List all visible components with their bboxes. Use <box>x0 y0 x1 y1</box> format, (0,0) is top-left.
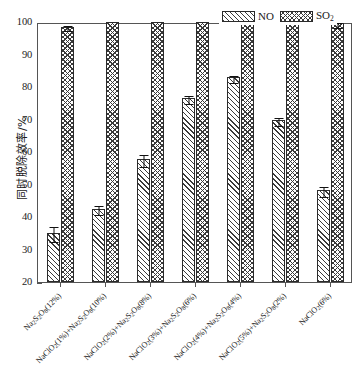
bar-so2 <box>286 22 299 282</box>
y-tick-label: 90 <box>6 49 32 60</box>
error-bar-cap-bottom <box>184 104 193 105</box>
bar-so2 <box>196 22 209 282</box>
y-tick-label: 60 <box>6 146 32 157</box>
legend-item-so2: SO2 <box>280 10 334 24</box>
legend: NO SO2 <box>219 9 337 25</box>
bar-no <box>182 98 195 282</box>
bar-so2 <box>331 23 344 282</box>
error-bar-cap-bottom <box>333 28 342 29</box>
error-bar-cap-bottom <box>319 197 328 198</box>
bar-no <box>137 159 150 282</box>
error-bar-cap-top <box>49 227 58 228</box>
y-tick-label: 30 <box>6 244 32 255</box>
bar-no <box>317 190 330 282</box>
x-tick-mark <box>60 283 61 287</box>
x-tick-mark <box>330 283 331 287</box>
error-bar-stem <box>98 206 99 215</box>
error-bar <box>137 155 150 167</box>
legend-item-no: NO <box>222 11 274 22</box>
y-tick-mark <box>37 283 42 284</box>
error-bar-stem <box>278 118 279 126</box>
bar-chart: 同时脱除效率/% 1009080706050403020 Na2S2O8(12%… <box>0 0 363 378</box>
error-bar-cap-bottom <box>274 126 283 127</box>
bar-no <box>227 77 240 282</box>
y-tick-label: 50 <box>6 179 32 190</box>
error-bar-stem <box>188 96 189 104</box>
error-bar-cap-bottom <box>139 167 148 168</box>
x-tick-mark <box>195 283 196 287</box>
y-tick-label: 40 <box>6 211 32 222</box>
legend-swatch-so2 <box>280 11 313 22</box>
error-bar-cap-bottom <box>94 215 103 216</box>
error-bar-cap-top <box>94 206 103 207</box>
plot-area <box>37 23 352 283</box>
error-bar <box>47 227 60 241</box>
error-bar <box>61 26 74 32</box>
y-tick-label: 80 <box>6 81 32 92</box>
error-bar-cap-top <box>139 155 148 156</box>
y-tick-label: 20 <box>6 276 32 287</box>
x-tick-mark <box>150 283 151 287</box>
error-bar-stem <box>323 187 324 197</box>
error-bar-cap-top <box>63 26 72 27</box>
error-bar <box>272 118 285 126</box>
x-tick-mark <box>105 283 106 287</box>
error-bar <box>227 76 240 83</box>
x-tick-mark <box>240 283 241 287</box>
bar-no <box>272 120 285 282</box>
bar-so2 <box>241 22 254 282</box>
error-bar-cap-top <box>229 76 238 77</box>
legend-label-so2: SO2 <box>316 10 334 24</box>
error-bar <box>182 96 195 104</box>
error-bar-cap-top <box>184 96 193 97</box>
bar-so2 <box>151 22 164 282</box>
error-bar-cap-bottom <box>63 31 72 32</box>
x-tick-mark <box>285 283 286 287</box>
error-bar-stem <box>53 227 54 241</box>
legend-swatch-no <box>222 11 255 22</box>
error-bar-cap-bottom <box>229 83 238 84</box>
bar-no <box>92 209 105 282</box>
error-bar-cap-top <box>274 118 283 119</box>
bar-so2 <box>106 22 119 282</box>
y-tick-label: 70 <box>6 114 32 125</box>
bar-so2 <box>61 27 74 282</box>
y-tick-label: 100 <box>6 16 32 27</box>
error-bar <box>92 206 105 215</box>
y-axis-title: 同时脱除效率/% <box>13 88 29 228</box>
error-bar-cap-bottom <box>49 242 58 243</box>
legend-label-no: NO <box>258 11 274 22</box>
error-bar-stem <box>143 155 144 167</box>
error-bar <box>317 187 330 197</box>
error-bar-cap-top <box>319 187 328 188</box>
